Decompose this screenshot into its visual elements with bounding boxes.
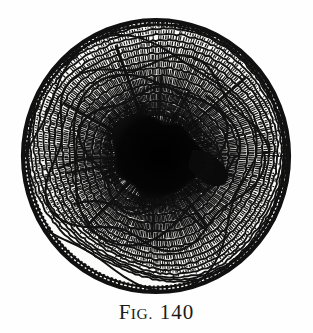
radial-ray [200,262,201,264]
radial-ray [166,224,167,230]
bark-tick [145,20,146,28]
radial-ray [57,180,60,181]
radial-ray [86,149,91,150]
radial-ray [130,249,131,252]
radial-ray [62,176,66,177]
radial-ray [254,173,259,174]
radial-ray [68,219,69,220]
pith-spike [160,197,161,205]
radial-ray [126,242,127,245]
radial-ray [187,44,188,47]
radial-ray [169,62,170,67]
radial-ray [45,130,48,131]
radial-ray [265,179,268,180]
bark-tick [281,177,288,178]
radial-ray [266,112,268,113]
radial-ray [165,77,166,84]
radial-ray [102,241,103,242]
radial-ray [58,183,61,184]
radial-ray [94,148,100,149]
radial-ray [178,261,179,264]
radial-ray [56,139,61,140]
radial-ray [173,254,174,259]
radial-ray [42,201,43,202]
radial-ray [137,45,138,49]
radial-ray [52,178,54,179]
radial-ray [195,35,196,37]
radial-ray [45,137,48,138]
radial-ray [76,216,77,217]
radial-ray [168,241,169,247]
radial-ray [134,52,135,56]
radial-ray [269,136,272,137]
radial-ray [182,43,183,46]
radial-ray [145,70,146,75]
radial-ray [42,182,45,183]
radial-ray [91,233,92,234]
radial-ray [210,151,218,152]
radial-ray [70,215,71,216]
radial-ray [136,256,137,259]
radial-ray [114,52,115,54]
bark-tick [24,177,31,178]
radial-ray [65,208,66,209]
radial-ray [133,46,134,49]
radial-ray [39,131,42,132]
radial-ray [238,166,245,167]
radial-ray [63,147,68,148]
radial-ray [253,175,257,176]
pith-spike [151,198,152,208]
radial-ray [46,208,47,209]
radial-ray [136,51,137,55]
radial-ray [57,192,59,193]
radial-ray [163,224,164,230]
radial-ray [120,258,121,259]
radial-ray [102,151,107,152]
radial-ray [267,129,271,130]
radial-ray [162,215,163,222]
radial-ray [52,204,54,205]
radial-ray [82,224,83,225]
radial-ray [173,35,174,39]
radial-ray [162,94,163,100]
radial-ray [142,49,143,54]
figure-page: FIG.140 [0,0,313,333]
radial-ray [68,176,72,177]
radial-ray [130,46,131,49]
radial-ray [45,128,48,129]
figure-caption: FIG.140 [0,300,313,325]
radial-ray [77,218,78,219]
radial-ray [48,212,50,213]
radial-ray [147,232,148,238]
pith-spike [206,159,213,160]
radial-ray [181,260,182,263]
radial-ray [130,30,131,32]
radial-ray [146,231,147,237]
radial-ray [46,122,49,123]
radial-ray [260,126,264,127]
radial-ray [176,261,177,264]
radial-ray [144,247,145,251]
radial-ray [53,196,55,197]
radial-ray [66,169,70,170]
radial-ray [238,163,246,164]
radial-ray [63,145,68,146]
radial-ray [79,165,85,166]
radial-ray [64,206,65,207]
radial-ray [149,94,150,100]
radial-ray [109,37,110,39]
radial-ray [61,200,63,201]
caption-smallcaps: IG. [131,305,153,322]
radial-ray [139,38,140,41]
radial-ray [160,206,161,213]
radial-ray [135,250,136,253]
bark-tick [136,21,137,28]
radial-ray [62,177,66,178]
radial-ray [142,71,143,76]
radial-ray [101,40,102,41]
radial-ray [202,261,203,263]
radial-ray [50,136,54,137]
radial-ray [56,135,61,136]
radial-ray [94,244,95,245]
radial-ray [39,142,42,143]
